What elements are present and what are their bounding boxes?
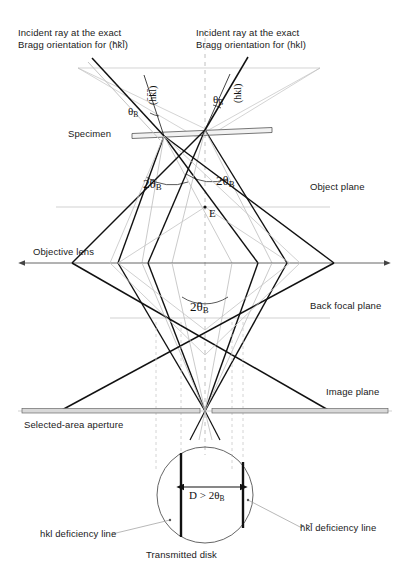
- two-theta-left-label: 2θB: [143, 176, 162, 192]
- disk-dimension-sub: B: [219, 494, 224, 503]
- aperture-bar-right: [212, 409, 388, 414]
- lens-envelope: [72, 130, 334, 263]
- plane-label-right: (hkl): [232, 84, 243, 103]
- transmitted-disk-label: Transmitted disk: [146, 549, 217, 561]
- right-beam-fan-faint: [172, 130, 272, 263]
- leader-dot-right: [247, 499, 249, 501]
- two-theta-right-label: 2θB: [216, 173, 235, 189]
- theta-b-left-sub: B: [133, 110, 138, 119]
- hkl-deficiency-line-label: hkl deficiency line: [40, 528, 116, 540]
- right-beam-fan: [148, 130, 287, 263]
- marginal-ray-right: [72, 263, 330, 411]
- theta-b-right-label: θB: [213, 93, 223, 107]
- left-diffracted-ray: [164, 136, 258, 263]
- back-focal-plane-label: Back focal plane: [310, 300, 381, 312]
- hkl-bar-deficiency-line-label: h̄k̄l̄ deficiency line: [300, 522, 376, 534]
- incident-rays: [92, 57, 248, 136]
- objective-lens-label: Objective lens: [33, 246, 94, 258]
- image-plane-label: Image plane: [326, 386, 379, 398]
- two-theta-left-sub: B: [156, 182, 162, 192]
- point-e-label: E: [209, 207, 216, 219]
- two-theta-lens-sub: B: [203, 305, 209, 315]
- selected-area-aperture-label: Selected-area aperture: [24, 419, 123, 431]
- disk-dimension-label: D > 2θB: [189, 489, 224, 503]
- plane-label-left: (h̄k̄l̄): [147, 86, 158, 105]
- theta-b-right-sub: B: [218, 98, 223, 107]
- theta-b-left-label: θB: [128, 105, 138, 119]
- plane-trace-left: [144, 75, 164, 136]
- two-theta-right-sub: B: [229, 179, 235, 189]
- faint-construction-cone: [78, 68, 320, 137]
- aperture-bar-left: [22, 409, 200, 414]
- below-aperture-rays-faint: [199, 411, 212, 440]
- incident-ray-left-label: Incident ray at the exact Bragg orientat…: [18, 14, 128, 52]
- point-e-marker: [203, 205, 206, 208]
- cbed-ray-diagram: Incident ray at the exact Bragg orientat…: [0, 0, 409, 578]
- theta-b-arcs: [150, 105, 221, 116]
- specimen-label: Specimen: [68, 128, 111, 140]
- deficiency-leader-lines: [112, 500, 302, 534]
- two-theta-lens-label: 2θB: [190, 299, 209, 315]
- object-plane-label: Object plane: [310, 181, 365, 193]
- leader-dot-left: [169, 519, 171, 521]
- incident-ray-right-label: Incident ray at the exact Bragg orientat…: [196, 14, 306, 52]
- left-transmitted-ray: [118, 136, 164, 263]
